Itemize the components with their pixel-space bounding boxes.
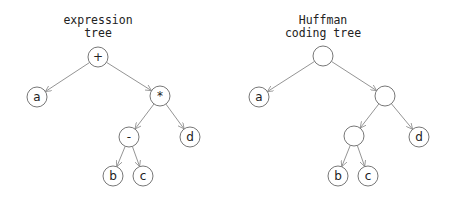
- edge-arrow: [132, 146, 139, 166]
- node-label: a: [33, 90, 40, 104]
- node-label: c: [140, 169, 147, 183]
- node-label: -: [127, 130, 131, 144]
- node-label: b: [334, 169, 342, 183]
- edge-arrow: [117, 146, 125, 166]
- node-label: c: [365, 169, 372, 183]
- tree-node-n1: [375, 86, 395, 106]
- node-label: a: [255, 90, 262, 104]
- edge-arrow: [166, 104, 184, 129]
- edge-arrow: [360, 104, 379, 128]
- edge-arrow: [106, 62, 151, 90]
- node-label: b: [109, 169, 117, 183]
- edge-arrow: [391, 104, 412, 130]
- edge-arrow: [267, 61, 314, 91]
- node-label: d: [415, 130, 423, 144]
- tree-title: expression: [63, 13, 132, 27]
- edge-arrow: [135, 104, 154, 129]
- edge-arrow: [357, 145, 364, 166]
- tree-title: Huffman: [299, 13, 347, 27]
- edge-arrow: [342, 145, 351, 166]
- expression-tree: expressiontree+a*-dbc: [27, 13, 200, 186]
- tree-node-root: [313, 46, 333, 66]
- edge-arrow: [45, 62, 89, 91]
- node-label: *: [157, 89, 163, 103]
- tree-diagram: expressiontree+a*-dbcHuffmancoding treea…: [0, 0, 453, 199]
- edge-arrow: [331, 61, 376, 90]
- node-label: d: [186, 130, 194, 144]
- huffman-tree: Huffmancoding treeadbc: [249, 13, 429, 186]
- tree-title: tree: [84, 26, 112, 40]
- tree-title: coding tree: [285, 26, 361, 40]
- tree-node-n2: [344, 126, 364, 146]
- node-label: +: [93, 50, 103, 64]
